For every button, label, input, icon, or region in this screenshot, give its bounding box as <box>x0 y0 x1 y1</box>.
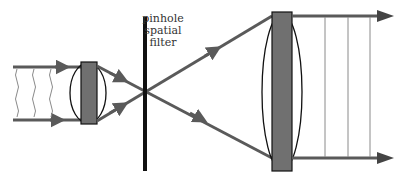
filter-label-line3: filter <box>149 36 177 49</box>
lens-1 <box>70 62 106 124</box>
input-beam <box>13 67 82 120</box>
arrowhead-bottom-icon <box>377 152 394 164</box>
lens-2 <box>262 12 302 171</box>
pinhole-spatial-filter <box>143 17 147 171</box>
optics-diagram: pinhole spatial filter <box>0 0 408 180</box>
filter-label: pinhole spatial filter <box>142 12 183 49</box>
output-beam <box>292 10 394 164</box>
focused-rays <box>97 16 272 158</box>
flat-wavefronts <box>325 17 370 157</box>
arrowhead-top-icon <box>377 10 394 22</box>
aberrated-wavefronts <box>16 69 53 117</box>
